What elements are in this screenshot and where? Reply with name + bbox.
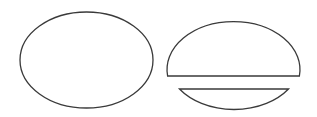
cut-ellipse-upper-part [167, 22, 300, 76]
whole-ellipse [20, 12, 153, 108]
cut-ellipse-lower-part [180, 89, 289, 109]
ellipse-diagram [0, 0, 317, 117]
